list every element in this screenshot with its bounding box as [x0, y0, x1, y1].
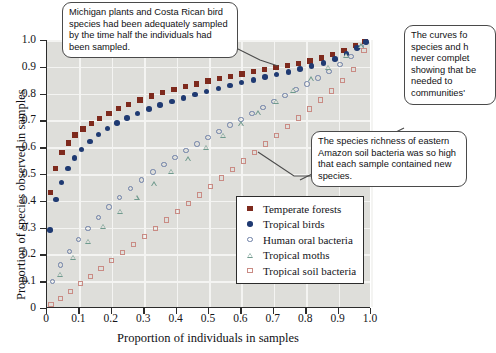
- legend-label: Tropical soil bacteria: [258, 265, 356, 277]
- y-tick-label: 0.8: [6, 87, 36, 99]
- y-tick: [40, 201, 46, 202]
- x-axis-title: Proportion of individuals in samples: [46, 331, 370, 346]
- legend-item-0: Temperate forests: [242, 201, 358, 217]
- legend-item-3: Tropical moths: [242, 248, 358, 264]
- legend-label: Temperate forests: [258, 203, 341, 215]
- legend-label: Human oral bacteria: [258, 234, 353, 246]
- gridline-horizontal: [47, 67, 370, 69]
- y-tick-label: 0: [6, 301, 36, 313]
- callout-top-left: Michigan plants and Costa Rican bird spe…: [62, 2, 238, 58]
- legend-item-1: Tropical birds: [242, 217, 358, 233]
- y-tick-label: 0.1: [6, 274, 36, 286]
- y-tick: [40, 120, 46, 121]
- y-tick: [40, 94, 46, 95]
- y-tick: [40, 40, 46, 41]
- y-tick-label: 0.2: [6, 247, 36, 259]
- x-tick-label: 0.9: [321, 312, 355, 324]
- legend-label: Tropical moths: [258, 249, 330, 261]
- y-tick: [40, 147, 46, 148]
- x-tick-label: 0.6: [223, 312, 257, 324]
- legend-marker-icon: [242, 263, 258, 279]
- x-tick-label: 0.2: [94, 312, 128, 324]
- legend-marker-icon: [242, 201, 258, 217]
- x-tick-label: 0.1: [61, 312, 95, 324]
- x-tick-label: 0.8: [288, 312, 322, 324]
- legend-item-4: Tropical soil bacteria: [242, 263, 358, 279]
- y-tick: [40, 254, 46, 255]
- legend-marker-icon: [242, 217, 258, 233]
- y-tick-label: 0.9: [6, 60, 36, 72]
- x-tick-label: 0: [29, 312, 63, 324]
- y-tick: [40, 228, 46, 229]
- x-tick-label: 0.5: [191, 312, 225, 324]
- y-tick: [40, 308, 46, 309]
- y-tick-label: 0.6: [6, 140, 36, 152]
- callout-top-right: The curves fo species and h never comple…: [404, 25, 496, 105]
- legend-marker-icon: [242, 232, 258, 248]
- legend-marker-icon: [242, 248, 258, 264]
- y-tick: [40, 174, 46, 175]
- gridline-horizontal: [47, 94, 370, 96]
- x-tick-label: 0.3: [126, 312, 160, 324]
- y-tick-label: 0.5: [6, 167, 36, 179]
- y-tick-label: 0.7: [6, 113, 36, 125]
- legend: Temperate forestsTropical birdsHuman ora…: [236, 196, 364, 284]
- callout-bottom-right: The species richness of eastern Amazon s…: [311, 131, 467, 187]
- x-tick-label: 0.4: [159, 312, 193, 324]
- callout-bottom-right-leader: [258, 146, 318, 186]
- y-tick-label: 0.4: [6, 194, 36, 206]
- y-tick-label: 1.0: [6, 33, 36, 45]
- y-tick: [40, 67, 46, 68]
- x-tick-label: 0.7: [256, 312, 290, 324]
- y-tick: [40, 281, 46, 282]
- y-tick-label: 0.3: [6, 221, 36, 233]
- legend-item-2: Human oral bacteria: [242, 232, 358, 248]
- x-tick-label: 1.0: [353, 312, 387, 324]
- legend-label: Tropical birds: [258, 218, 325, 230]
